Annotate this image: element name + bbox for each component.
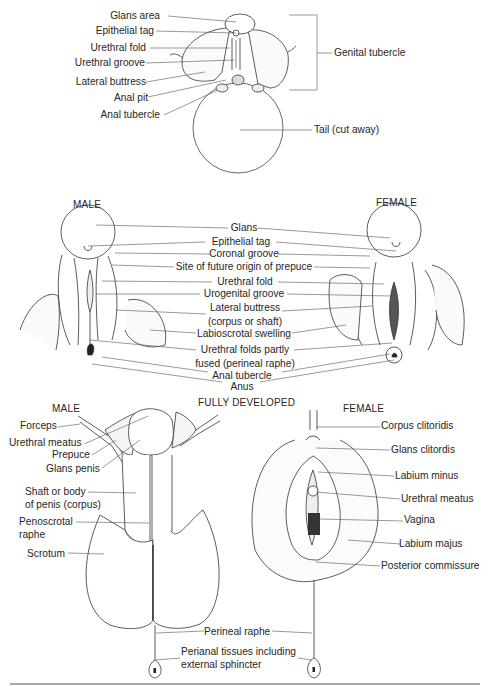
label-epithelial-tag-mid: Epithelial tag bbox=[0, 236, 482, 248]
label-urogenital-groove: Urogenital groove bbox=[0, 288, 488, 300]
label-epithelial-tag: Epithelial tag bbox=[96, 25, 154, 37]
label-perineal-raphe: Perineal raphe bbox=[204, 626, 270, 638]
label-penoscrotal-raphe-2: raphe bbox=[19, 529, 45, 541]
label-scrotum: Scrotum bbox=[27, 548, 65, 560]
heading-female-bottom: FEMALE bbox=[343, 403, 384, 414]
label-glans: Glans bbox=[0, 222, 488, 234]
label-urethral-folds-fused-2: fused (perineal raphe) bbox=[0, 358, 488, 370]
label-anus: Anus bbox=[0, 381, 484, 393]
label-forceps: Forceps bbox=[20, 420, 57, 432]
label-perianal-tissues-2: external sphincter bbox=[181, 659, 261, 671]
fully-developed-female-drawing bbox=[252, 410, 378, 678]
heading-male-bottom: MALE bbox=[52, 403, 80, 414]
label-urethral-fold: Urethral fold bbox=[91, 42, 147, 54]
fully-developed-male-drawing bbox=[78, 409, 220, 678]
label-prepuce-site: Site of future origin of prepuce bbox=[0, 261, 488, 273]
label-urethral-groove: Urethral groove bbox=[75, 57, 145, 69]
label-lateral-buttress-mid: Lateral buttress bbox=[0, 302, 488, 314]
label-lateral-buttress-mid-2: (corpus or shaft) bbox=[0, 316, 488, 328]
label-shaft-2: of penis (corpus) bbox=[25, 499, 101, 511]
label-vagina: Vagina bbox=[404, 514, 435, 526]
label-perianal-tissues: Perianal tissues including bbox=[181, 646, 296, 658]
label-urethral-folds-fused: Urethral folds partly bbox=[0, 344, 488, 356]
label-penoscrotal-raphe: Penoscrotal bbox=[19, 516, 73, 528]
label-corpus-clitoridis: Corpus clitoridis bbox=[381, 420, 453, 432]
indifferent-stage-drawing bbox=[170, 14, 296, 173]
label-glans-penis: Glans penis bbox=[46, 463, 100, 475]
label-labioscrotal-swelling: Labioscrotal swelling bbox=[0, 328, 488, 340]
label-anal-tubercle: Anal tubercle bbox=[101, 109, 160, 121]
diagram-artwork bbox=[0, 0, 488, 686]
label-labium-majus: Labium majus bbox=[399, 538, 462, 550]
label-posterior-commissure: Posterior commissure bbox=[381, 560, 480, 572]
label-tail: Tail (cut away) bbox=[314, 124, 379, 136]
label-urethral-meatus-female: Urethral meatus bbox=[401, 493, 473, 505]
label-anal-pit: Anal pit bbox=[114, 92, 148, 104]
label-shaft: Shaft or body bbox=[25, 486, 86, 498]
label-urethral-fold-mid: Urethral fold bbox=[0, 276, 488, 288]
label-genital-tubercle: Genital tubercle bbox=[334, 47, 405, 59]
heading-fully-developed: FULLY DEVELOPED bbox=[198, 397, 295, 408]
label-lateral-buttress: Lateral buttress bbox=[76, 76, 146, 88]
label-prepuce: Prepuce bbox=[52, 449, 90, 461]
label-coronal-groove: Coronal groove bbox=[0, 248, 488, 260]
heading-female-middle: FEMALE bbox=[376, 197, 417, 208]
label-glans-area: Glans area bbox=[110, 10, 160, 22]
heading-male-middle: MALE bbox=[73, 199, 101, 210]
label-labium-minus: Labium minus bbox=[395, 470, 458, 482]
label-glans-clitoridis: Glans clitordis bbox=[391, 444, 455, 456]
label-urethral-meatus-male: Urethral meatus bbox=[9, 437, 81, 449]
